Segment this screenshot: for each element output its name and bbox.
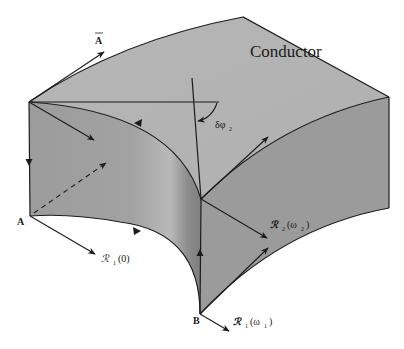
r1-omega-subscript: 1 [245,323,248,329]
vector-a-text: A [95,35,103,46]
conductor-label: Conductor [250,42,322,61]
r1-omega-arrow [200,314,229,331]
r1-zero-symbol: ℛ [101,253,110,264]
r1-omega-symbol: ℛ [233,316,242,327]
r1-zero-subscript: 1 [113,260,116,266]
point-a-label: A [17,216,25,227]
r2-arg-subscript: 2 [301,226,304,232]
delta-phi-subscript: 2 [229,126,232,132]
r1-omega-arg-open: (ω [250,316,260,328]
r1-zero-arrow [30,216,95,254]
r2-subscript: 2 [282,226,285,232]
r1-omega-arg-close: ) [269,316,272,328]
r2-arg-close: ) [306,219,309,231]
conductor-diagram: Conductor A δφ 2 A B ℛ 1 (0) ℛ 2 (ω 2 ) … [0,0,404,349]
r1-zero-label: ℛ 1 (0) [101,253,130,266]
delta-phi-label: δφ [215,119,226,130]
r1-zero-arg: (0) [118,253,130,265]
point-b-label: B [193,315,200,326]
vector-a-label: A [95,33,103,46]
r1-omega1-label: ℛ 1 (ω 1 ) [233,316,272,329]
r2-arg-open: (ω [287,219,297,231]
r2-symbol: ℛ [270,219,279,230]
r1-omega-arg-subscript: 1 [264,323,267,329]
arrow-bottom-curve-icon [133,227,141,235]
